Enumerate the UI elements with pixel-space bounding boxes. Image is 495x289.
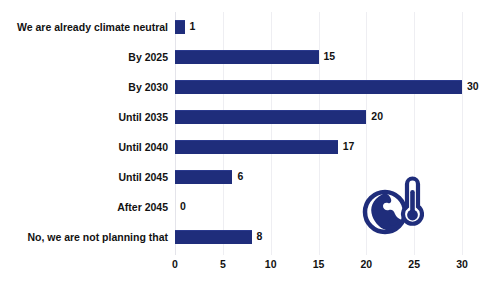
- value-label: 6: [237, 170, 243, 183]
- bar: [175, 20, 185, 34]
- category-label: No, we are not planning that: [27, 222, 168, 252]
- category-label: By 2025: [128, 42, 168, 72]
- x-tick-label: 20: [360, 258, 372, 270]
- x-tick-label: 10: [265, 258, 277, 270]
- bar: [175, 230, 252, 244]
- bar-row: We are already climate neutral1: [175, 12, 462, 42]
- bar-row: Until 203520: [175, 102, 462, 132]
- bar-chart: We are already climate neutral1By 202515…: [0, 0, 495, 289]
- bar: [175, 170, 232, 184]
- bar-row: By 202515: [175, 42, 462, 72]
- value-label: 0: [180, 200, 186, 213]
- category-label: Until 2045: [118, 162, 168, 192]
- gridline-30: [462, 12, 463, 255]
- value-label: 8: [257, 230, 263, 243]
- x-tick-label: 30: [456, 258, 468, 270]
- x-tick-label: 5: [220, 258, 226, 270]
- value-label: 15: [324, 50, 336, 63]
- category-label: Until 2040: [118, 132, 168, 162]
- bar: [175, 140, 338, 154]
- category-label: We are already climate neutral: [17, 12, 168, 42]
- value-label: 30: [467, 80, 479, 93]
- value-label: 17: [343, 140, 355, 153]
- bar: [175, 50, 319, 64]
- globe-thermometer-icon: [358, 172, 424, 236]
- x-tick-label: 0: [172, 258, 178, 270]
- bar-row: By 203030: [175, 72, 462, 102]
- category-label: After 2045: [117, 192, 168, 222]
- value-label: 1: [190, 20, 196, 33]
- category-label: Until 2035: [118, 102, 168, 132]
- bar-row: Until 204017: [175, 132, 462, 162]
- x-tick-label: 15: [313, 258, 325, 270]
- category-label: By 2030: [128, 72, 168, 102]
- bar: [175, 80, 462, 94]
- x-axis: 051015202530: [175, 258, 462, 276]
- bar: [175, 110, 366, 124]
- x-tick-label: 25: [408, 258, 420, 270]
- value-label: 20: [371, 110, 383, 123]
